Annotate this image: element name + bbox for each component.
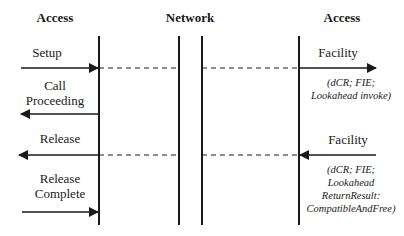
- label-release-complete-line2: Complete: [20, 186, 100, 201]
- label-facility-invoke: Facility: [308, 45, 368, 60]
- label-facility-return-params: (dCR; FIE; Lookahead ReturnResult: Compa…: [298, 163, 404, 215]
- label-release-complete: Release Complete: [20, 171, 100, 201]
- header-left-access: Access: [30, 10, 80, 26]
- params-return-line4: CompatibleAndFree): [298, 202, 404, 215]
- params-invoke-line1: (dCR; FIE;: [298, 76, 404, 89]
- label-facility-return: Facility: [318, 132, 378, 147]
- label-release: Release: [25, 131, 95, 146]
- label-call-proceeding-line1: Call: [15, 78, 95, 93]
- params-return-line1: (dCR; FIE;: [298, 163, 404, 176]
- label-facility-invoke-params: (dCR; FIE; Lookahead invoke): [298, 76, 404, 102]
- label-call-proceeding: Call Proceeding: [15, 78, 95, 108]
- label-call-proceeding-line2: Proceeding: [15, 93, 95, 108]
- header-network: Network: [160, 10, 220, 26]
- label-setup: Setup: [22, 45, 72, 60]
- label-release-complete-line1: Release: [20, 171, 100, 186]
- params-invoke-line2: Lookahead invoke): [298, 89, 404, 102]
- header-right-access: Access: [317, 10, 367, 26]
- params-return-line2: Lookahead: [298, 176, 404, 189]
- params-return-line3: ReturnResult:: [298, 189, 404, 202]
